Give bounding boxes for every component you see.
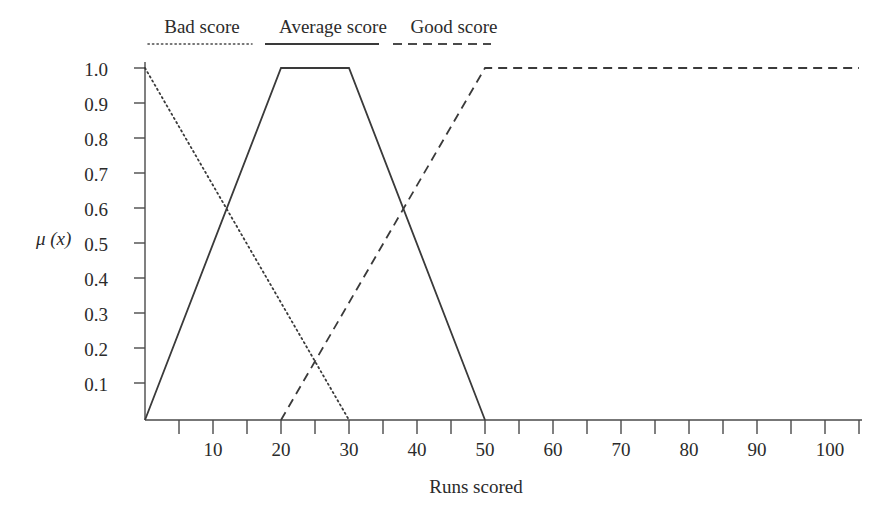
series-line-average-score	[145, 68, 485, 420]
fuzzy-membership-chart: Bad score Average score Good score μ (x)…	[0, 0, 881, 515]
plot-canvas	[0, 0, 881, 515]
series-lines	[145, 68, 859, 420]
series-line-good-score	[281, 68, 859, 420]
y-axis-ticks	[134, 68, 145, 383]
axis-lines	[145, 62, 862, 420]
x-axis-ticks	[179, 420, 859, 434]
series-line-bad-score	[145, 68, 349, 420]
